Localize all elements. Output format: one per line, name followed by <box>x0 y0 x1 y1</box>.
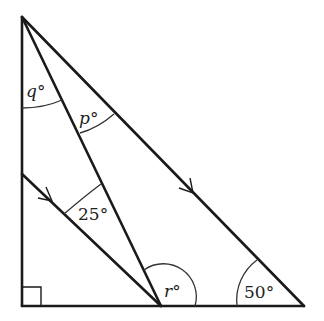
angle-label-q: q° <box>26 81 45 101</box>
hypotenuse <box>22 17 304 306</box>
cevian-line <box>22 17 161 306</box>
angle-label-r: r° <box>164 281 181 301</box>
angle-arc-q <box>22 100 62 108</box>
angle-label-p: p° <box>79 108 98 128</box>
right-angle-marker <box>22 287 41 306</box>
angle-label-25: 25° <box>78 204 108 224</box>
parallel-line <box>22 174 161 306</box>
angle-label-50: 50° <box>244 282 274 302</box>
triangle-diagram: q° p° 25° r° 50° <box>0 0 324 321</box>
